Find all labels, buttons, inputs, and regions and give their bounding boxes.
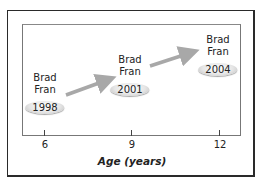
tick-6 [44,130,45,136]
name-brad: Brad [110,54,149,66]
group-2001: Brad Fran 2001 [110,54,149,97]
name-fran: Fran [110,66,149,78]
year-badge: 2001 [110,83,149,96]
x-axis-title: Age (years) [98,155,167,167]
name-fran: Fran [198,46,237,58]
name-brad: Brad [25,72,64,84]
name-fran: Fran [25,84,64,96]
tick-12 [219,130,220,136]
group-1998: Brad Fran 1998 [25,72,64,115]
year-badge: 2004 [198,63,237,76]
tick-label-9: 9 [129,139,135,150]
tick-9 [131,130,132,136]
tick-label-6: 6 [42,139,48,150]
tick-label-12: 12 [214,139,227,150]
arrow-2001-2004 [150,52,193,66]
arrow-1998-2001 [66,79,110,95]
name-brad: Brad [198,34,237,46]
group-2004: Brad Fran 2004 [198,34,237,77]
year-badge: 1998 [25,101,64,114]
